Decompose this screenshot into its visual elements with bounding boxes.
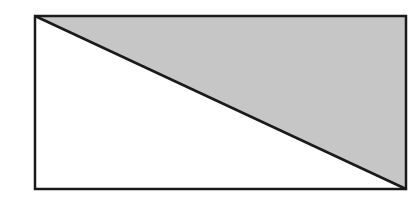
rectangle-diagonal-diagram <box>0 0 418 202</box>
